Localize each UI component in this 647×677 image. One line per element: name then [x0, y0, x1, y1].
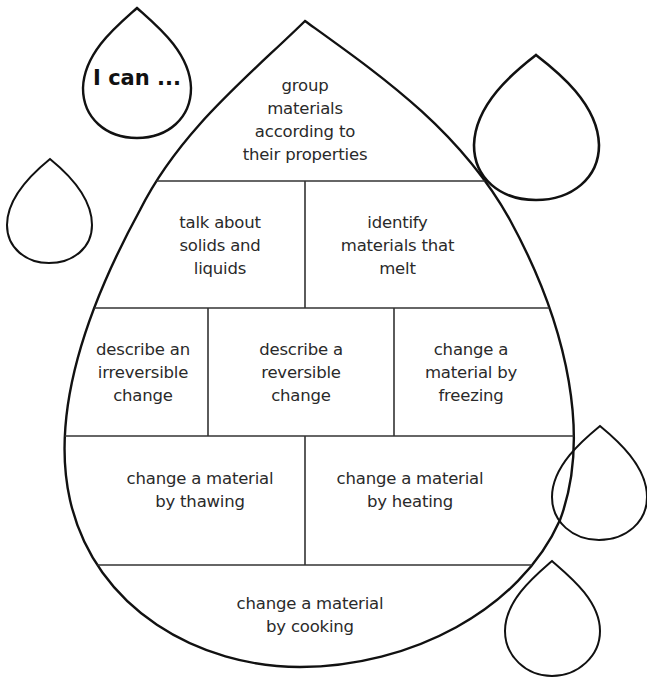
cell-change-by-cooking: change a material by cooking	[190, 585, 430, 645]
cell-irreversible-change: describe an irreversible change	[80, 315, 206, 430]
cell-change-by-thawing: change a material by thawing	[100, 440, 300, 540]
cell-talk-about-solids-liquids: talk about solids and liquids	[140, 190, 300, 300]
blank-drop-top-right[interactable]	[474, 55, 599, 200]
cell-change-by-freezing: change a material by freezing	[396, 315, 546, 430]
blank-drop-left[interactable]	[7, 159, 92, 263]
cell-change-by-heating: change a material by heating	[310, 440, 510, 540]
cell-identify-materials-that-melt: identify materials that melt	[310, 190, 485, 300]
blank-drop-right[interactable]	[552, 426, 647, 540]
cell-reversible-change: describe a reversible change	[210, 315, 392, 430]
cell-group-materials: group materials according to their prope…	[205, 70, 405, 170]
i-can-heading: I can ...	[83, 58, 191, 98]
